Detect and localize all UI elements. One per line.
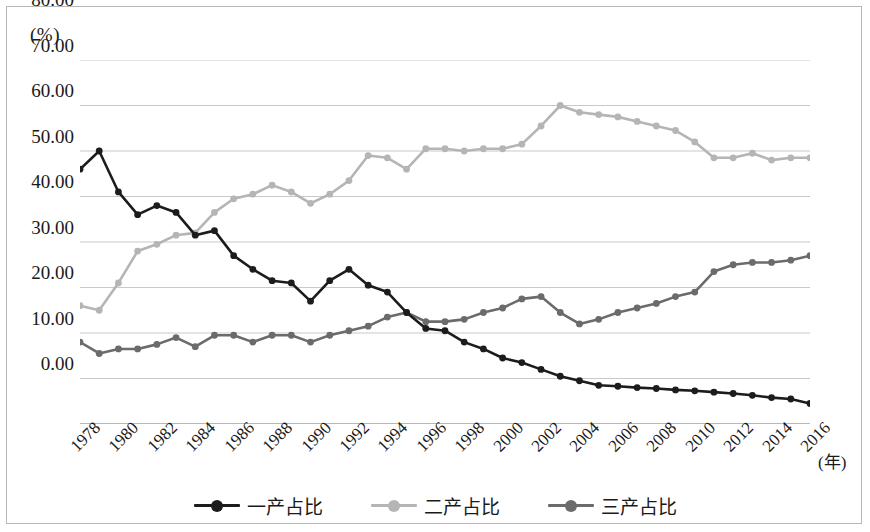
legend-marker-icon bbox=[194, 500, 240, 512]
x-axis-unit-label: (年) bbox=[818, 448, 846, 473]
data-point bbox=[595, 316, 602, 323]
data-point bbox=[653, 300, 660, 307]
data-point bbox=[807, 252, 810, 259]
plot-svg bbox=[80, 60, 810, 424]
data-point bbox=[480, 145, 487, 152]
legend-item[interactable]: 三产占比 bbox=[548, 492, 677, 519]
data-point bbox=[711, 154, 718, 161]
data-point bbox=[269, 332, 276, 339]
data-point bbox=[538, 366, 545, 373]
data-point bbox=[115, 189, 122, 196]
data-point bbox=[442, 327, 449, 334]
data-point bbox=[307, 339, 314, 346]
data-point bbox=[557, 309, 564, 316]
y-axis-tick: 20.00 bbox=[31, 262, 74, 284]
data-point bbox=[96, 350, 103, 357]
series-line bbox=[80, 151, 810, 404]
data-point bbox=[807, 154, 810, 161]
data-point bbox=[96, 307, 103, 314]
series-tertiary bbox=[80, 252, 810, 357]
data-point bbox=[461, 339, 468, 346]
data-point bbox=[518, 295, 525, 302]
data-point bbox=[403, 309, 410, 316]
legend-label: 一产占比 bbox=[247, 492, 323, 519]
y-axis-tick: 10.00 bbox=[31, 308, 74, 330]
data-point bbox=[595, 111, 602, 118]
data-point bbox=[346, 177, 353, 184]
data-point bbox=[749, 392, 756, 399]
data-point bbox=[634, 384, 641, 391]
data-point bbox=[153, 202, 160, 209]
data-point bbox=[538, 123, 545, 130]
legend-label: 三产占比 bbox=[601, 492, 677, 519]
data-point bbox=[422, 145, 429, 152]
data-point bbox=[249, 339, 256, 346]
data-point bbox=[422, 325, 429, 332]
data-point bbox=[461, 316, 468, 323]
data-point bbox=[576, 109, 583, 116]
data-point bbox=[288, 332, 295, 339]
data-point bbox=[365, 282, 372, 289]
data-point bbox=[749, 150, 756, 157]
legend-item[interactable]: 一产占比 bbox=[194, 492, 323, 519]
data-point bbox=[249, 191, 256, 198]
data-point bbox=[461, 148, 468, 155]
data-point bbox=[192, 343, 199, 350]
y-axis-tick: 70.00 bbox=[31, 35, 74, 57]
data-point bbox=[480, 309, 487, 316]
data-point bbox=[230, 252, 237, 259]
data-point bbox=[288, 280, 295, 287]
y-axis-tick: 0.00 bbox=[41, 353, 74, 375]
y-axis-tick: 80.00 bbox=[31, 0, 74, 11]
data-point bbox=[365, 152, 372, 159]
data-point bbox=[538, 293, 545, 300]
data-point bbox=[672, 293, 679, 300]
y-axis-tick-labels: 80.0070.0060.0050.0040.0030.0020.0010.00… bbox=[0, 0, 74, 364]
data-point bbox=[614, 383, 621, 390]
data-point bbox=[711, 268, 718, 275]
data-point bbox=[499, 355, 506, 362]
data-point bbox=[80, 302, 83, 309]
data-point bbox=[672, 386, 679, 393]
y-axis-tick: 50.00 bbox=[31, 126, 74, 148]
data-point bbox=[557, 102, 564, 109]
data-point bbox=[134, 248, 141, 255]
data-point bbox=[653, 385, 660, 392]
data-point bbox=[326, 191, 333, 198]
data-point bbox=[518, 141, 525, 148]
data-point bbox=[480, 346, 487, 353]
plot-area bbox=[80, 60, 810, 424]
data-point bbox=[518, 359, 525, 366]
y-axis-tick: 30.00 bbox=[31, 217, 74, 239]
data-point bbox=[614, 309, 621, 316]
data-point bbox=[691, 289, 698, 296]
data-point bbox=[288, 189, 295, 196]
data-point bbox=[384, 314, 391, 321]
legend-item[interactable]: 二产占比 bbox=[371, 492, 500, 519]
series-secondary bbox=[80, 102, 810, 314]
data-point bbox=[403, 166, 410, 173]
data-point bbox=[346, 266, 353, 273]
data-point bbox=[730, 261, 737, 268]
data-point bbox=[249, 266, 256, 273]
legend-marker-icon bbox=[548, 500, 594, 512]
data-point bbox=[96, 148, 103, 155]
data-point bbox=[384, 289, 391, 296]
data-point bbox=[230, 332, 237, 339]
data-point bbox=[691, 139, 698, 146]
data-point bbox=[307, 298, 314, 305]
data-point bbox=[326, 277, 333, 284]
data-point bbox=[211, 209, 218, 216]
data-point bbox=[576, 321, 583, 328]
data-point bbox=[115, 280, 122, 287]
data-point bbox=[346, 327, 353, 334]
data-point bbox=[211, 332, 218, 339]
series-line bbox=[80, 106, 810, 311]
data-point bbox=[576, 377, 583, 384]
data-point bbox=[691, 387, 698, 394]
data-point bbox=[230, 195, 237, 202]
legend-label: 二产占比 bbox=[424, 492, 500, 519]
data-point bbox=[499, 305, 506, 312]
data-point bbox=[614, 113, 621, 120]
data-point bbox=[634, 118, 641, 125]
